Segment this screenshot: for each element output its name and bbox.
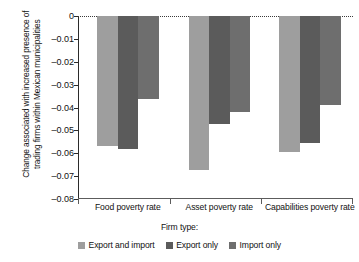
chart-figure: Change associated with increased presenc…: [0, 0, 359, 262]
y-axis-tick-label: –0.06: [51, 148, 74, 158]
bar: [209, 16, 230, 124]
bar: [138, 16, 159, 99]
legend-swatch-icon: [78, 242, 85, 249]
legend-title: Firm type:: [0, 222, 359, 232]
y-axis-tick-label: –0.03: [51, 80, 74, 90]
x-axis-category-label: Asset poverty rate: [174, 202, 264, 212]
legend-item-label: Import only: [240, 240, 281, 250]
y-axis-line: [78, 16, 79, 199]
plot-area: [78, 16, 353, 199]
bar: [300, 16, 321, 143]
y-axis-tick: [74, 176, 79, 177]
y-axis-tick-label: –0.04: [51, 103, 74, 113]
legend-item[interactable]: Export only: [166, 240, 218, 250]
bar: [320, 16, 341, 105]
legend-item[interactable]: Export and import: [78, 240, 155, 250]
y-axis-tick-label: –0.01: [51, 34, 74, 44]
y-axis-tick: [74, 62, 79, 63]
y-axis-tick-label: –0.05: [51, 125, 74, 135]
legend-swatch-icon: [166, 242, 173, 249]
y-axis-tick-label: –0.02: [51, 57, 74, 67]
legend-item[interactable]: Import only: [229, 240, 281, 250]
y-axis-tick: [74, 16, 79, 17]
legend: Export and importExport onlyImport only: [0, 240, 359, 250]
legend-item-label: Export and import: [89, 240, 155, 250]
x-axis-category-labels: Food poverty rateAsset poverty rateCapab…: [78, 202, 353, 216]
y-axis-tick: [74, 130, 79, 131]
y-axis-tick: [74, 199, 79, 200]
x-axis-category-label: Food poverty rate: [83, 202, 173, 212]
y-axis-tick: [74, 108, 79, 109]
y-axis-tick: [74, 85, 79, 86]
y-axis-tick-label: –0.07: [51, 171, 74, 181]
y-axis-tick-labels: 0–0.01–0.02–0.03–0.04–0.05–0.06–0.07–0.0…: [0, 16, 74, 199]
legend-item-label: Export only: [176, 240, 218, 250]
bar: [97, 16, 118, 146]
bar: [189, 16, 210, 170]
y-axis-tick-label: –0.08: [51, 194, 74, 204]
bar: [230, 16, 251, 112]
x-axis-category-label: Capabilities poverty rate: [265, 202, 355, 212]
bar: [279, 16, 300, 152]
bar: [118, 16, 139, 149]
legend-swatch-icon: [229, 242, 236, 249]
x-axis-line: [78, 198, 353, 199]
y-axis-tick: [74, 39, 79, 40]
y-axis-tick: [74, 153, 79, 154]
